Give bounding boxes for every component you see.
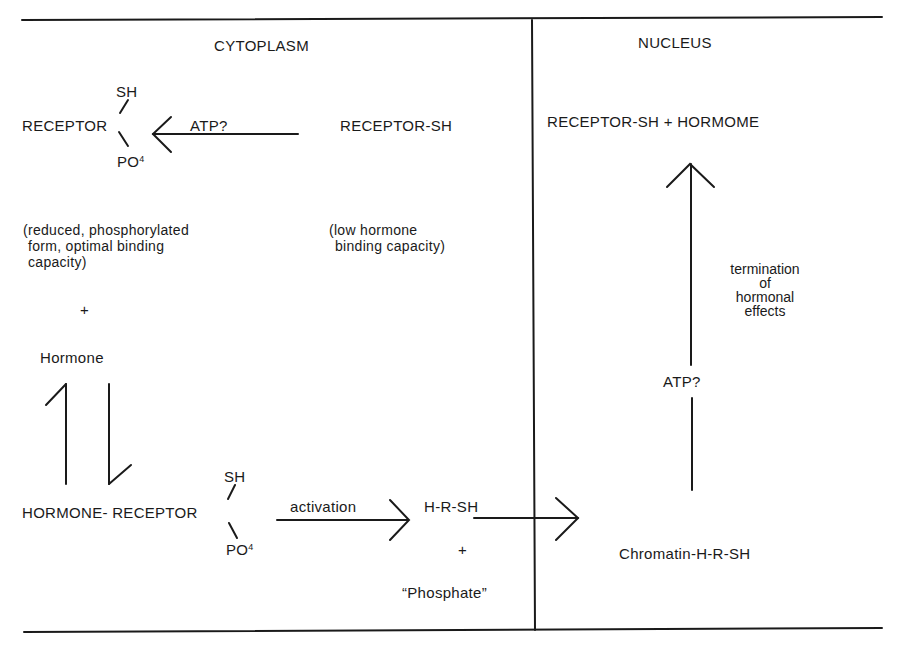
plus-sign-hormone: +: [80, 301, 89, 318]
cytoplasm-nucleus-divider: [532, 20, 535, 630]
sh-bond-top: [120, 100, 128, 113]
activation-label: activation: [290, 498, 356, 515]
top-border-line: [22, 17, 882, 20]
region-title-cytoplasm: CYTOPLASM: [214, 37, 309, 54]
bottom-border-line: [24, 628, 882, 632]
sh-group-label: SH: [224, 468, 245, 485]
hrsh-label: H-R-SH: [424, 498, 478, 515]
receptor-hormone-product-label: RECEPTOR-SH + HORMOME: [547, 113, 759, 130]
plus-sign-phosphate: +: [458, 541, 467, 558]
equilibrium-up-hook: [46, 384, 66, 405]
region-title-nucleus: NUCLEUS: [638, 34, 712, 51]
chromatin-complex-label: Chromatin-H-R-SH: [619, 545, 750, 562]
po4-bond-top: [119, 132, 128, 146]
sh-bond-bottom: [228, 485, 235, 499]
receptor-sh-label: RECEPTOR-SH: [340, 117, 452, 134]
phosphate-label: “Phosphate”: [402, 584, 487, 601]
termination-label: termination of hormonal effects: [700, 262, 830, 318]
po4-bond-bottom: [229, 523, 237, 538]
hormone-receptor-label: HORMONE- RECEPTOR: [22, 504, 198, 521]
equilibrium-down-hook: [109, 465, 131, 484]
receptor-label: RECEPTOR: [22, 117, 107, 134]
po4-group-label: PO4: [226, 539, 254, 558]
nucleus-atp-label: ATP?: [663, 373, 701, 390]
sh-group-label: SH: [116, 83, 137, 100]
atp-arrow-label: ATP?: [190, 117, 228, 134]
po4-group-label: PO4: [117, 151, 145, 170]
hormone-label: Hormone: [40, 349, 104, 366]
